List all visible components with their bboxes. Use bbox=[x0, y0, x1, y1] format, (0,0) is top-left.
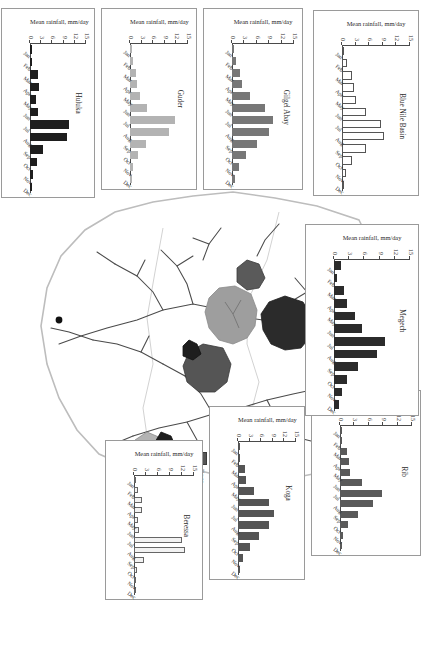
bar bbox=[130, 128, 169, 136]
bar bbox=[340, 479, 362, 486]
bar bbox=[238, 499, 269, 507]
bar bbox=[342, 108, 366, 116]
bar bbox=[30, 70, 38, 79]
y-axis bbox=[342, 45, 410, 46]
bar bbox=[238, 443, 240, 451]
y-tick-mark bbox=[169, 472, 170, 475]
bar bbox=[130, 69, 136, 77]
y-tick-label: 9 bbox=[168, 453, 174, 471]
bar bbox=[232, 57, 236, 65]
y-tick-label: 3 bbox=[39, 21, 45, 39]
y-tick-mark bbox=[74, 40, 75, 43]
y-tick-mark bbox=[164, 40, 165, 43]
y-tick-label: 12 bbox=[174, 21, 180, 39]
plot-area bbox=[342, 45, 410, 191]
bar bbox=[30, 45, 32, 54]
bar bbox=[340, 490, 382, 497]
y-tick-mark bbox=[409, 42, 410, 45]
bar bbox=[342, 120, 381, 128]
bar bbox=[238, 487, 254, 495]
y-tick-mark bbox=[243, 40, 244, 43]
chart-panel-huluka: Mean rainfall, mm/dayHuluka15129630JanFe… bbox=[1, 8, 95, 198]
y-tick-mark bbox=[411, 422, 412, 425]
y-tick-mark bbox=[339, 422, 340, 425]
y-axis bbox=[130, 43, 188, 44]
y-tick-label: 12 bbox=[282, 419, 288, 437]
bar bbox=[340, 511, 358, 518]
bar bbox=[334, 375, 347, 384]
y-tick-label: 15 bbox=[186, 21, 192, 39]
y-tick-label: 12 bbox=[280, 21, 286, 39]
y-tick-label: 3 bbox=[144, 453, 150, 471]
y-tick-mark bbox=[133, 472, 134, 475]
bar bbox=[130, 151, 138, 159]
chart-panel-guder: Mean rainfall, mm/dayGuder15129630JanFeb… bbox=[101, 8, 197, 190]
y-tick-label: 9 bbox=[271, 419, 277, 437]
y-tick-label: 6 bbox=[50, 21, 56, 39]
y-axis bbox=[334, 259, 410, 260]
bar bbox=[238, 543, 250, 551]
y-tick-label: 3 bbox=[140, 21, 146, 39]
y-tick-label: 0 bbox=[230, 21, 236, 39]
bar bbox=[334, 299, 347, 308]
y-tick-mark bbox=[145, 472, 146, 475]
hydro-station-point bbox=[56, 317, 63, 324]
bar bbox=[232, 80, 242, 88]
y-tick-mark bbox=[193, 472, 194, 475]
bar bbox=[342, 144, 366, 152]
y-tick-label: 3 bbox=[242, 21, 248, 39]
y-tick-label: 3 bbox=[354, 23, 360, 41]
y-tick-label: 9 bbox=[381, 23, 387, 41]
y-tick-label: 6 bbox=[259, 419, 265, 437]
bar bbox=[342, 156, 352, 164]
bar bbox=[342, 71, 352, 79]
y-tick-label: 15 bbox=[192, 453, 198, 471]
y-tick-mark bbox=[341, 42, 342, 45]
bar bbox=[130, 92, 140, 100]
bar bbox=[334, 261, 341, 270]
y-tick-mark bbox=[382, 42, 383, 45]
bar bbox=[342, 96, 357, 104]
y-tick-label: 6 bbox=[255, 21, 261, 39]
y-tick-label: 12 bbox=[394, 23, 400, 41]
y-tick-label: 0 bbox=[28, 21, 34, 39]
plot-area bbox=[130, 43, 188, 185]
bar bbox=[340, 448, 347, 455]
bar bbox=[232, 128, 269, 136]
y-tick-label: 0 bbox=[132, 453, 138, 471]
bar bbox=[232, 116, 273, 124]
y-tick-mark bbox=[368, 42, 369, 45]
plot-area bbox=[340, 425, 412, 551]
y-tick-mark bbox=[353, 422, 354, 425]
y-tick-mark bbox=[141, 40, 142, 43]
y-tick-mark bbox=[397, 422, 398, 425]
y-tick-mark bbox=[181, 472, 182, 475]
bar bbox=[238, 521, 269, 529]
rotated-figure: Hydro stations River system Lake Tana Be… bbox=[0, 0, 435, 649]
y-tick-mark bbox=[29, 40, 30, 43]
bar bbox=[30, 83, 39, 92]
y-tick-mark bbox=[231, 40, 232, 43]
bar bbox=[134, 497, 142, 504]
y-tick-mark bbox=[295, 438, 296, 441]
y-tick-label: 6 bbox=[156, 453, 162, 471]
y-tick-mark bbox=[260, 438, 261, 441]
bar bbox=[238, 465, 245, 473]
bar bbox=[334, 337, 385, 346]
bar bbox=[334, 312, 355, 321]
y-tick-label: 12 bbox=[393, 237, 399, 255]
plot-area bbox=[134, 475, 194, 595]
y-tick-label: 3 bbox=[347, 237, 353, 255]
chart-panel-blue-nile-basin: Mean rainfall, mm/dayBlue Nile Basin1512… bbox=[313, 10, 419, 196]
y-tick-mark bbox=[272, 438, 273, 441]
bar bbox=[342, 132, 384, 140]
y-tick-mark bbox=[355, 42, 356, 45]
y-tick-mark bbox=[63, 40, 64, 43]
bar bbox=[340, 500, 373, 507]
bar bbox=[30, 158, 37, 167]
y-tick-label: 9 bbox=[267, 21, 273, 39]
bar bbox=[232, 140, 257, 148]
bar bbox=[340, 469, 350, 476]
y-tick-label: 9 bbox=[163, 21, 169, 39]
y-tick-label: 0 bbox=[340, 23, 346, 41]
